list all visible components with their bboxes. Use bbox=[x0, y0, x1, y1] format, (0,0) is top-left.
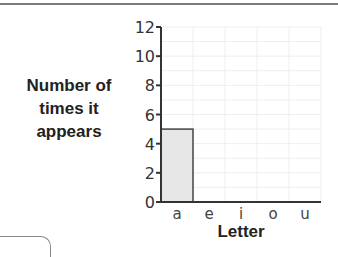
y-tick-label: 12 bbox=[135, 18, 155, 37]
x-axis-label: Letter bbox=[217, 222, 265, 241]
y-tick-label: 8 bbox=[145, 76, 155, 95]
corner-tab-outline bbox=[0, 236, 51, 257]
x-category-label: a bbox=[172, 205, 181, 223]
y-tick-label: 10 bbox=[135, 47, 155, 66]
bar-a bbox=[161, 129, 193, 202]
x-category-label: i bbox=[239, 205, 243, 223]
y-tick-label: 2 bbox=[145, 164, 155, 183]
y-tick-label: 4 bbox=[145, 135, 155, 154]
x-category-label: u bbox=[300, 205, 310, 223]
y-tick-label: 6 bbox=[145, 106, 155, 125]
x-category-label: e bbox=[204, 205, 213, 223]
x-category-label: o bbox=[268, 205, 277, 223]
y-tick-label: 0 bbox=[145, 193, 155, 212]
